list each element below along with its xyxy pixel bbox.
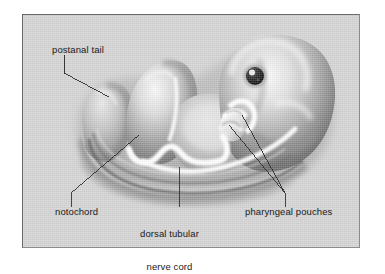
eye: [244, 65, 267, 88]
label-dorsal-line-1: dorsal tubular: [140, 228, 199, 239]
label-postanal-tail: postanal tail: [52, 44, 104, 55]
label-dorsal-line-2: nerve cord: [140, 261, 199, 272]
label-pharyngeal-pouches: pharyngeal pouches: [245, 206, 332, 217]
label-dorsal-tubular-nerve-cord: dorsal tubular nerve cord: [140, 206, 199, 274]
label-notochord: notochord: [55, 206, 98, 217]
